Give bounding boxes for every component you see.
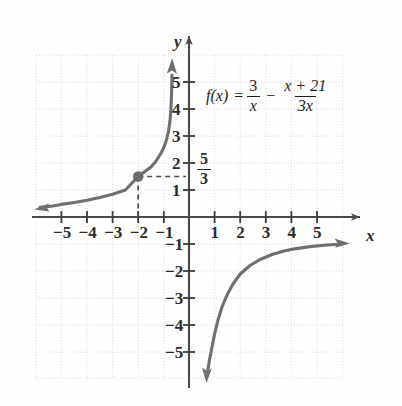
equation-term1-numerator: 3 [246,78,260,96]
y-tick-label-neg5: −5 [165,344,183,361]
y-tick-label-neg1: −1 [165,236,183,253]
x-tick-label-neg3: −3 [104,224,122,241]
function-equation: f(x) = 3 x − x + 21 3x [206,78,329,114]
y-tick-label-5: 5 [172,74,181,91]
marked-point-dot [133,171,143,181]
function-graph-figure: −5 −4 −3 −2 −1 1 2 3 4 5 5 4 3 2 1 −1 −2… [0,0,402,406]
x-axis [32,213,360,221]
y-tick-label-neg3: −3 [165,290,183,307]
y-tick-label-3: 3 [172,128,181,145]
x-tick-label-1: 1 [211,224,220,241]
x-tick-label-3: 3 [262,224,271,241]
x-tick-label-2: 2 [236,224,245,241]
equation-term1-denominator: x [247,96,260,115]
x-tick-label-4: 4 [287,224,296,241]
y-tick-label-1: 1 [172,182,181,199]
equation-term2-fraction: x + 21 3x [281,78,329,114]
fraction-denominator: 3 [197,169,211,188]
curve-left-branch [34,58,177,212]
curve-right-branch [202,239,350,383]
point-value-annotation: 5 3 [197,151,211,187]
y-tick-label-2: 2 [172,155,181,172]
y-axis-label: y [174,33,182,50]
x-tick-label-neg5: −5 [53,224,71,241]
plot-canvas [0,0,402,406]
equation-minus-operator: − [266,87,275,105]
y-tick-label-neg4: −4 [165,317,183,334]
x-tick-label-neg4: −4 [79,224,97,241]
y-tick-label-neg2: −2 [165,263,183,280]
fraction-numerator: 5 [197,151,211,169]
equation-lhs: f(x) [206,87,228,105]
equation-term1-fraction: 3 x [246,78,260,114]
y-axis [185,36,193,388]
fraction-five-thirds: 5 3 [197,151,211,187]
equation-term2-denominator: 3x [295,96,316,115]
x-tick-label-5: 5 [313,224,322,241]
x-axis-label: x [366,227,375,244]
y-tick-label-4: 4 [172,101,181,118]
equation-equals-sign: = [234,87,243,105]
equation-term2-numerator: x + 21 [281,78,329,96]
x-tick-label-neg2: −2 [130,224,148,241]
